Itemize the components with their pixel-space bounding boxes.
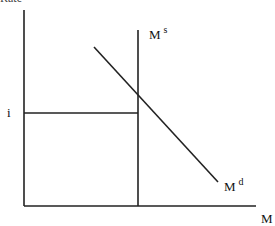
money-quantity-label: M	[261, 212, 273, 225]
y-axis-title-fragment: Rate	[0, 0, 22, 4]
demand-base: M	[224, 179, 236, 194]
demand-sup: d	[239, 176, 244, 187]
money-demand-label: Md	[224, 180, 244, 193]
supply-sup: s	[164, 24, 168, 35]
money-supply-label: Ms	[149, 28, 167, 41]
supply-base: M	[149, 27, 161, 42]
interest-rate-label: i	[7, 106, 11, 119]
money-demand-line	[94, 47, 218, 182]
